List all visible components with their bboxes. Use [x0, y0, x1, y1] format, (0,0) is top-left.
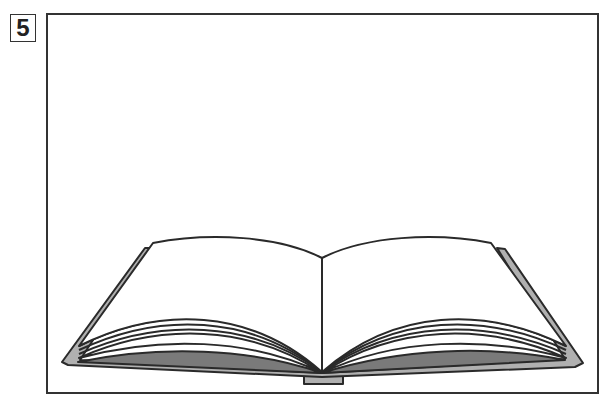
- open-book-illustration: [0, 0, 613, 414]
